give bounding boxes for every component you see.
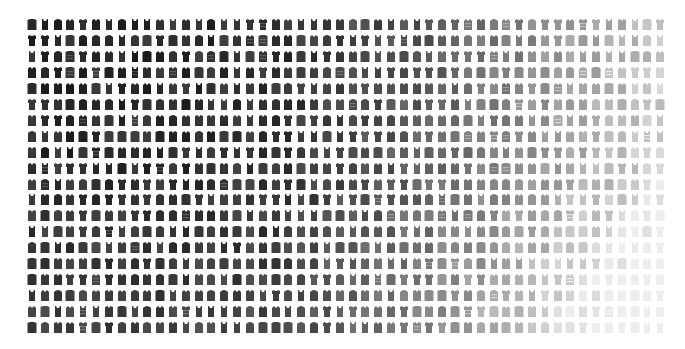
garment-thumbnail — [245, 82, 255, 95]
garment-thumbnail — [104, 209, 114, 222]
garment-thumbnail — [527, 34, 537, 47]
garment-thumbnail — [399, 18, 409, 31]
garment-thumbnail — [168, 18, 178, 31]
garment-icon — [591, 257, 601, 270]
garment-icon — [617, 289, 627, 302]
garment-icon — [283, 146, 293, 159]
garment-thumbnail — [424, 225, 434, 238]
garment-icon — [553, 34, 563, 47]
garment-thumbnail — [65, 18, 75, 31]
garment-icon — [373, 193, 383, 206]
garment-thumbnail — [168, 34, 178, 47]
garment-icon — [104, 289, 114, 302]
garment-icon — [617, 162, 627, 175]
garment-icon — [642, 34, 652, 47]
garment-icon — [437, 82, 447, 95]
garment-icon — [527, 162, 537, 175]
garment-thumbnail — [117, 289, 127, 302]
garment-icon — [117, 273, 127, 286]
garment-thumbnail — [232, 257, 242, 270]
garment-thumbnail — [40, 66, 50, 79]
garment-icon — [617, 18, 627, 31]
garment-icon — [514, 241, 524, 254]
garment-thumbnail — [412, 82, 422, 95]
garment-icon — [489, 178, 499, 191]
garment-icon — [514, 305, 524, 318]
garment-icon — [360, 18, 370, 31]
garment-thumbnail — [155, 162, 165, 175]
garment-icon — [630, 193, 640, 206]
garment-thumbnail — [489, 114, 499, 127]
garment-thumbnail — [65, 114, 75, 127]
garment-icon — [514, 289, 524, 302]
garment-icon — [206, 66, 216, 79]
garment-icon — [424, 82, 434, 95]
garment-icon — [232, 273, 242, 286]
garment-thumbnail — [399, 193, 409, 206]
garment-thumbnail — [91, 273, 101, 286]
garment-thumbnail — [412, 50, 422, 63]
garment-icon — [322, 18, 332, 31]
garment-thumbnail — [412, 178, 422, 191]
garment-icon — [335, 98, 345, 111]
garment-thumbnail — [578, 114, 588, 127]
garment-icon — [155, 50, 165, 63]
garment-thumbnail — [540, 98, 550, 111]
garment-thumbnail — [258, 162, 268, 175]
garment-thumbnail — [245, 289, 255, 302]
garment-thumbnail — [476, 98, 486, 111]
garment-thumbnail — [463, 50, 473, 63]
garment-icon — [386, 146, 396, 159]
garment-thumbnail — [335, 209, 345, 222]
garment-thumbnail — [232, 162, 242, 175]
garment-icon — [117, 130, 127, 143]
garment-thumbnail — [373, 34, 383, 47]
garment-thumbnail — [219, 178, 229, 191]
garment-icon — [399, 321, 409, 334]
garment-icon — [296, 289, 306, 302]
garment-icon — [232, 146, 242, 159]
garment-icon — [553, 82, 563, 95]
garment-icon — [450, 82, 460, 95]
garment-icon — [27, 50, 37, 63]
garment-thumbnail — [399, 257, 409, 270]
garment-icon — [335, 321, 345, 334]
garment-icon — [489, 114, 499, 127]
garment-icon — [219, 193, 229, 206]
garment-thumbnail — [489, 18, 499, 31]
garment-thumbnail — [309, 178, 319, 191]
garment-icon — [104, 66, 114, 79]
garment-icon — [27, 257, 37, 270]
garment-icon — [219, 257, 229, 270]
garment-thumbnail — [142, 66, 152, 79]
garment-icon — [630, 209, 640, 222]
garment-icon — [424, 209, 434, 222]
garment-icon — [322, 146, 332, 159]
garment-icon — [271, 321, 281, 334]
garment-thumbnail — [219, 162, 229, 175]
garment-icon — [130, 241, 140, 254]
garment-thumbnail — [540, 66, 550, 79]
garment-thumbnail — [655, 18, 665, 31]
garment-thumbnail — [450, 225, 460, 238]
garment-thumbnail — [489, 130, 499, 143]
garment-thumbnail — [142, 178, 152, 191]
garment-thumbnail — [155, 305, 165, 318]
garment-icon — [53, 193, 63, 206]
garment-icon — [322, 241, 332, 254]
garment-icon — [142, 273, 152, 286]
garment-icon — [450, 241, 460, 254]
garment-thumbnail — [271, 257, 281, 270]
garment-thumbnail — [309, 146, 319, 159]
garment-thumbnail — [399, 98, 409, 111]
garment-thumbnail — [591, 146, 601, 159]
garment-icon — [219, 146, 229, 159]
garment-thumbnail — [142, 162, 152, 175]
garment-thumbnail — [642, 50, 652, 63]
garment-thumbnail — [206, 257, 216, 270]
garment-icon — [322, 225, 332, 238]
garment-thumbnail — [283, 193, 293, 206]
garment-icon — [540, 257, 550, 270]
garment-icon — [27, 114, 37, 127]
garment-icon — [117, 241, 127, 254]
